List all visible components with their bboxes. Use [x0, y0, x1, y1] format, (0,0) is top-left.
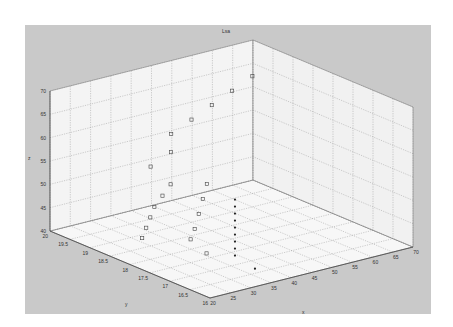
data-point-dot	[234, 198, 236, 200]
y-tick-label: 19.5	[58, 241, 68, 247]
z-tick-label: 70	[40, 88, 46, 94]
y-tick-label: 19	[82, 250, 88, 256]
chart-title: Lsa	[222, 28, 230, 34]
y-tick-label: 16	[202, 300, 208, 306]
x-tick-label: 40	[291, 280, 297, 286]
z-tick-label: 55	[40, 158, 46, 164]
data-point-dot	[234, 212, 236, 214]
z-tick-label: 45	[40, 205, 46, 211]
y-tick-label: 17	[162, 283, 168, 289]
data-point-dot	[234, 233, 236, 235]
data-point-dot	[234, 240, 236, 242]
y-tick-label: 20	[42, 233, 48, 239]
x-tick-label: 45	[312, 275, 318, 281]
data-point-dot	[254, 268, 256, 270]
x-tick-label: 30	[251, 290, 257, 296]
y-tick-label: 16.5	[178, 292, 188, 298]
z-tick-label: 50	[40, 181, 46, 187]
data-point-dot	[234, 205, 236, 207]
x-tick-label: 60	[373, 259, 379, 265]
x-tick-label: 20	[210, 300, 216, 306]
y-tick-label: 18	[122, 267, 128, 273]
data-point-dot	[234, 254, 236, 256]
data-point-dot	[234, 247, 236, 249]
x-tick-label: 65	[393, 254, 399, 260]
z-tick-label: 60	[40, 135, 46, 141]
x-tick-label: 25	[231, 295, 237, 301]
y-tick-label: 17.5	[138, 275, 148, 281]
x-tick-label: 55	[352, 264, 358, 270]
y-axis-label: y	[125, 301, 128, 307]
x-tick-label: 70	[413, 249, 419, 255]
y-tick-label: 18.5	[98, 258, 108, 264]
data-point-dot	[234, 219, 236, 221]
data-point-dot	[234, 226, 236, 228]
z-tick-label: 65	[40, 111, 46, 117]
z-axis-label: z	[28, 155, 31, 161]
scatter3d-plot: 4045505560657020253035404550556065702019…	[0, 0, 453, 327]
x-tick-label: 35	[271, 285, 277, 291]
x-tick-label: 50	[332, 269, 338, 275]
x-axis-label: x	[302, 309, 305, 315]
